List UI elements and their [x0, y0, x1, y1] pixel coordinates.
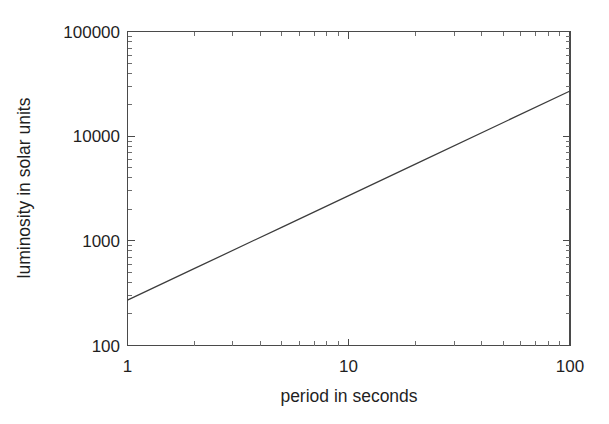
y-tick-label-1000: 1000 [82, 232, 120, 251]
y-tick-label-100000: 100000 [63, 23, 120, 42]
y-axis-title: luminosity in solar units [14, 97, 34, 278]
x-tick-label-100: 100 [556, 357, 584, 376]
chart-background [0, 0, 609, 424]
chart-figure: 100000 10000 1000 100 1 10 100 period in… [0, 0, 609, 424]
x-tick-label-10: 10 [339, 357, 358, 376]
x-axis-title: period in seconds [280, 386, 417, 406]
x-tick-label-1: 1 [123, 357, 132, 376]
y-tick-label-10000: 10000 [73, 127, 120, 146]
plot-svg: 100000 10000 1000 100 1 10 100 period in… [0, 0, 609, 424]
y-tick-label-100: 100 [92, 337, 120, 356]
